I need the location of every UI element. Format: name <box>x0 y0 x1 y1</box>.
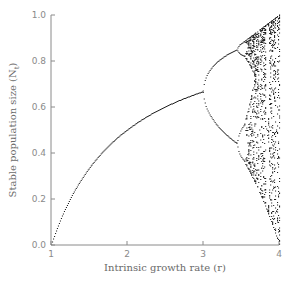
plot-points <box>51 15 280 245</box>
y-ticks: 0.00.20.40.60.81.0 <box>32 10 55 250</box>
y-tick-label: 0.8 <box>32 56 47 66</box>
y-tick-label: 0.4 <box>32 148 47 158</box>
bifurcation-points <box>51 15 280 245</box>
x-tick-label: 3 <box>200 249 206 259</box>
y-axis-title: Stable population size (Nt) <box>7 62 21 197</box>
x-ticks: 1234 <box>48 241 282 259</box>
x-tick-label: 4 <box>276 249 282 259</box>
x-tick-label: 1 <box>48 249 54 259</box>
y-tick-label: 1.0 <box>32 10 47 20</box>
y-tick-label: 0.2 <box>32 194 46 204</box>
y-tick-label: 0.6 <box>32 102 47 112</box>
y-tick-label: 0.0 <box>32 240 47 250</box>
x-axis-title: Intrinsic growth rate (r) <box>104 262 226 273</box>
bifurcation-chart: 0.00.20.40.60.81.0 1234 Intrinsic growth… <box>0 0 295 283</box>
axes: 0.00.20.40.60.81.0 1234 <box>32 10 282 259</box>
x-tick-label: 2 <box>124 249 130 259</box>
